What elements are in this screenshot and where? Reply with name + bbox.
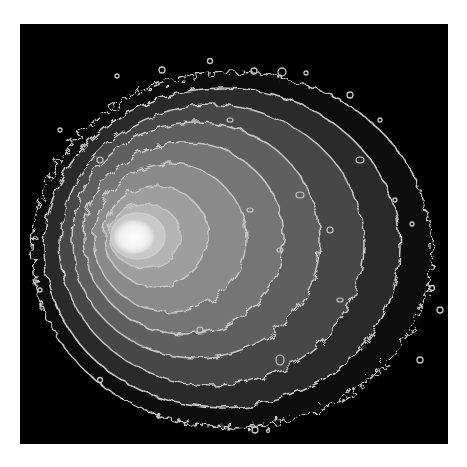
contour-image-frame [20,24,448,444]
core-contours [111,213,165,259]
contour-map [20,24,448,444]
contour-levels [44,88,400,408]
